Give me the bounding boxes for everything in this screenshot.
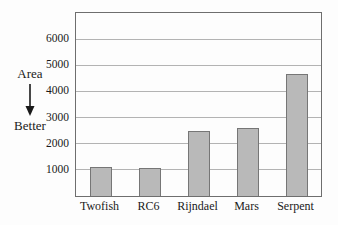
- y-tick-label-1000: 1000: [35, 162, 69, 176]
- y-tick-label-4000: 4000: [35, 83, 69, 97]
- bar-rc6: [139, 168, 161, 196]
- bar-chart-figure: Area Better 100020003000400050006000 Two…: [0, 0, 338, 225]
- bar-rijndael: [188, 131, 210, 196]
- bar-serpent: [286, 74, 308, 196]
- bar-mars: [237, 128, 259, 196]
- x-tick-label-twofish: Twofish: [75, 199, 124, 213]
- bar-twofish: [90, 167, 112, 196]
- x-tick-label-rc6: RC6: [124, 199, 173, 213]
- y-tick-label-3000: 3000: [35, 110, 69, 124]
- gridline-4000: [76, 91, 321, 92]
- y-tick-label-6000: 6000: [35, 31, 69, 45]
- gridline-3000: [76, 117, 321, 118]
- y-tick-label-2000: 2000: [35, 136, 69, 150]
- gridline-5000: [76, 65, 321, 66]
- plot-area: [75, 12, 322, 197]
- x-tick-label-mars: Mars: [222, 199, 271, 213]
- gridline-6000: [76, 39, 321, 40]
- x-tick-label-rijndael: Rijndael: [173, 199, 222, 213]
- x-tick-label-serpent: Serpent: [271, 199, 320, 213]
- y-tick-label-5000: 5000: [35, 57, 69, 71]
